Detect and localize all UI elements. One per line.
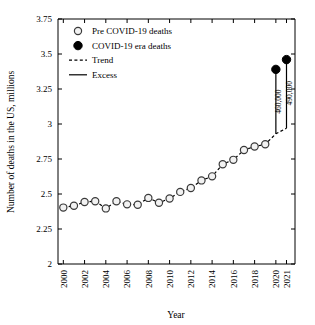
pre-covid-data-point bbox=[187, 184, 194, 191]
chart-container: 22.252.52.7533.253.53.75 200020022004200… bbox=[0, 0, 315, 325]
pre-covid-data-point bbox=[230, 156, 237, 163]
legend-item-label: COVID-19 era deaths bbox=[92, 41, 171, 51]
pre-covid-data-point bbox=[70, 202, 77, 209]
y-tick-label: 2.75 bbox=[36, 154, 52, 164]
covid-era-data-point bbox=[272, 65, 280, 73]
x-tick-label: 2006 bbox=[122, 270, 132, 289]
legend-item-label: Pre COVID-19 deaths bbox=[92, 26, 172, 36]
y-tick-label: 3.25 bbox=[36, 84, 52, 94]
pre-covid-data-point bbox=[92, 198, 99, 205]
pre-covid-data-point bbox=[240, 146, 247, 153]
x-tick-label: 2010 bbox=[165, 270, 175, 289]
x-tick-label: 2014 bbox=[207, 270, 217, 289]
x-tick-label: 2016 bbox=[229, 270, 239, 289]
x-tick-label: 2008 bbox=[144, 270, 154, 289]
legend-marker-open-circle-icon bbox=[74, 27, 81, 34]
x-tick-label: 2002 bbox=[80, 270, 90, 288]
pre-covid-data-point bbox=[262, 141, 269, 148]
pre-covid-data-point bbox=[166, 195, 173, 202]
pre-covid-data-point bbox=[219, 161, 226, 168]
pre-covid-data-point bbox=[145, 194, 152, 201]
x-axis-title: Year bbox=[167, 310, 185, 320]
y-tick-label: 2.5 bbox=[41, 189, 53, 199]
y-axis-title: Number of deaths in the US, millions bbox=[6, 71, 16, 214]
x-tick-label: 2012 bbox=[186, 270, 196, 288]
y-tick-label: 3.5 bbox=[41, 49, 53, 59]
excess-value-label: 460,000 bbox=[274, 89, 283, 114]
legend-marker-filled-circle-icon bbox=[74, 41, 82, 49]
pre-covid-data-point bbox=[134, 201, 141, 208]
x-tick-label: 2000 bbox=[59, 270, 69, 289]
pre-covid-data-point bbox=[123, 201, 130, 208]
pre-covid-data-point bbox=[198, 177, 205, 184]
x-tick-label: 2004 bbox=[101, 270, 111, 289]
pre-covid-data-point bbox=[60, 204, 67, 211]
excess-value-label: 490,000 bbox=[285, 81, 294, 106]
covid-era-data-point bbox=[282, 55, 290, 63]
pre-covid-data-point bbox=[155, 199, 162, 206]
y-tick-label: 3 bbox=[48, 119, 53, 129]
pre-covid-data-point bbox=[113, 198, 120, 205]
y-tick-label: 3.75 bbox=[36, 14, 52, 24]
x-tick-label: 2021 bbox=[282, 270, 292, 288]
deaths-scatter-chart: 22.252.52.7533.253.53.75 200020022004200… bbox=[0, 0, 315, 325]
pre-covid-data-point bbox=[81, 198, 88, 205]
pre-covid-data-point bbox=[177, 188, 184, 195]
y-tick-label: 2 bbox=[48, 259, 53, 269]
pre-covid-data-point bbox=[251, 143, 258, 150]
pre-covid-data-point bbox=[102, 205, 109, 212]
pre-covid-data-point bbox=[209, 173, 216, 180]
y-tick-label: 2.25 bbox=[36, 224, 52, 234]
x-tick-label: 2018 bbox=[250, 270, 260, 289]
x-tick-label: 2020 bbox=[271, 270, 281, 289]
legend-item-label: Excess bbox=[92, 70, 117, 80]
legend-item-label: Trend bbox=[92, 55, 114, 65]
